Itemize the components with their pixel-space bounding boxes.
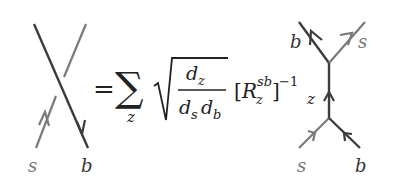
denominator-d2: d — [201, 96, 213, 118]
s-strand-lower — [36, 96, 56, 148]
denominator-sub2: b — [213, 107, 221, 122]
R-symbol: R — [241, 79, 257, 103]
denominator-d1: d — [179, 96, 191, 118]
label-b-bottom: b — [81, 155, 93, 176]
exponent: −1 — [279, 74, 298, 89]
braiding-equation: s b = ∑ z d z d s d b [ R sb z ] −1 z b … — [0, 0, 394, 184]
sum-index: z — [126, 108, 135, 126]
equals-sign: = — [93, 74, 115, 104]
label-s-bottom-right: s — [297, 155, 306, 176]
label-b-bottom-right: b — [355, 155, 367, 176]
R-subscript: z — [255, 92, 263, 107]
b-arrow-icon — [77, 120, 85, 134]
sum-symbol: ∑ — [115, 64, 144, 110]
numerator-sub: z — [197, 73, 205, 88]
numerator-d: d — [186, 62, 198, 84]
label-s-top: s — [358, 31, 367, 52]
denominator-sub1: s — [191, 107, 198, 122]
R-superscript: sb — [257, 74, 272, 89]
trailing-z: z — [306, 90, 315, 108]
top-b-strand — [299, 22, 329, 63]
vertex-diagram: b s s b — [290, 22, 367, 176]
label-s-bottom: s — [28, 155, 37, 176]
bracket-open: [ — [234, 79, 242, 103]
s-strand-upper — [64, 24, 86, 77]
label-b-top: b — [290, 31, 302, 52]
crossing-diagram: s b — [28, 24, 93, 176]
s-arrow-icon — [39, 112, 49, 126]
